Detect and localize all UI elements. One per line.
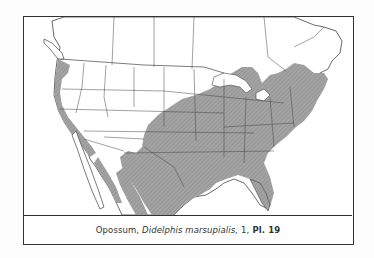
- range-map: [24, 17, 352, 216]
- range-map-svg: [24, 17, 352, 215]
- map-caption: Opossum, Didelphis marsupialis, 1, Pl. 1…: [24, 216, 352, 244]
- figure-plate: Opossum, Didelphis marsupialis, 1, Pl. 1…: [23, 16, 354, 245]
- caption-plate: Pl. 19: [252, 225, 280, 235]
- caption-scientific-name: Didelphis marsupialis,: [142, 225, 238, 235]
- caption-number: 1,: [241, 225, 249, 235]
- caption-common-name: Opossum,: [96, 225, 139, 235]
